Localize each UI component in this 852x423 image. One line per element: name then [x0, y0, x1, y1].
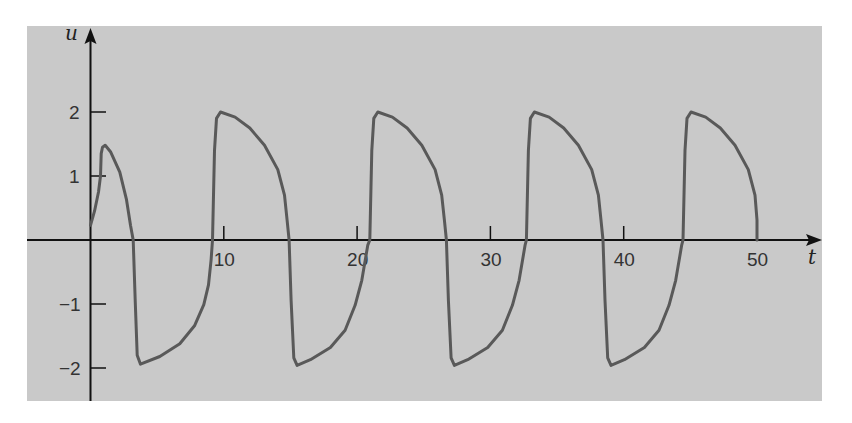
x-tick-label: 50	[747, 249, 768, 270]
y-tick-label: 1	[69, 166, 80, 187]
y-tick-label: −2	[59, 358, 81, 379]
x-tick-label: 40	[614, 249, 635, 270]
x-tick-label: 10	[214, 249, 235, 270]
chart: 102030405021−1−2 t u	[0, 0, 852, 423]
y-tick-label: 2	[69, 102, 80, 123]
y-tick-label: −1	[59, 294, 81, 315]
x-axis-label: t	[808, 245, 817, 269]
x-tick-label: 30	[480, 249, 501, 270]
plot-panel	[27, 26, 822, 401]
y-axis-label: u	[65, 21, 78, 45]
